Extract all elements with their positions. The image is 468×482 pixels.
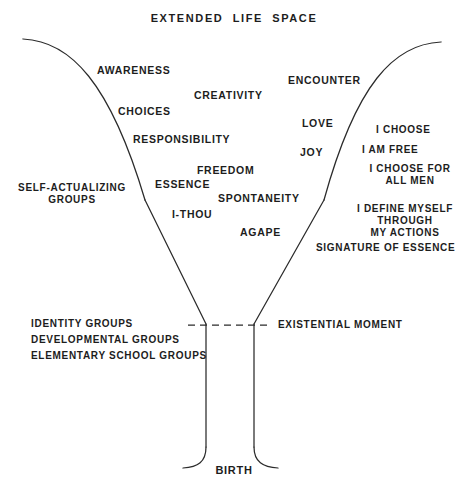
right-outer-label-3: I DEFINE MYSELF THROUGH MY ACTIONS	[357, 203, 453, 238]
concept-label-0: AWARENESS	[97, 64, 170, 76]
concept-label-3: CREATIVITY	[194, 89, 263, 101]
right-outer-label-0: I CHOOSE	[376, 124, 431, 136]
right-outer-label-1: I AM FREE	[362, 144, 419, 156]
funnel-shape-graphic	[0, 0, 468, 482]
funnel-right-bottom-flare	[254, 447, 278, 468]
left-outer-label-0: SELF-ACTUALIZING GROUPS	[18, 182, 126, 206]
extended-life-space-diagram: EXTENDED LIFE SPACE SELF-ACTUALIZING GRO…	[0, 0, 468, 482]
concept-label-10: LOVE	[302, 117, 333, 129]
group-label-0: IDENTITY GROUPS	[31, 318, 133, 330]
funnel-left-bottom-flare	[183, 447, 206, 468]
existential-moment-label: EXISTENTIAL MOMENT	[278, 319, 403, 331]
concept-label-5: FREEDOM	[197, 164, 254, 176]
concept-label-2: RESPONSIBILITY	[133, 133, 230, 145]
concept-label-9: ENCOUNTER	[288, 74, 361, 86]
right-outer-label-2: I CHOOSE FOR ALL MEN	[369, 163, 450, 187]
birth-label: BIRTH	[215, 464, 252, 477]
group-label-1: DEVELOPMENTAL GROUPS	[31, 334, 180, 346]
concept-label-4: ESSENCE	[155, 178, 210, 190]
concept-label-1: CHOICES	[118, 105, 171, 117]
concept-label-6: I-THOU	[172, 208, 212, 220]
concept-label-8: AGAPE	[240, 226, 281, 238]
group-label-2: ELEMENTARY SCHOOL GROUPS	[31, 350, 207, 362]
page-title: EXTENDED LIFE SPACE	[151, 12, 318, 25]
right-outer-label-4: SIGNATURE OF ESSENCE	[316, 242, 455, 254]
concept-label-7: SPONTANEITY	[218, 192, 300, 204]
funnel-right-diagonal	[254, 200, 324, 324]
concept-label-11: JOY	[300, 146, 323, 158]
